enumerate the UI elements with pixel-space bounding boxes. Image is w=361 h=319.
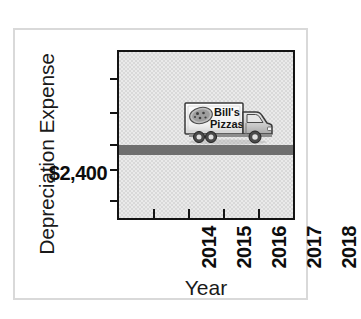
delivery-truck-illustration: Bill's Pizzas [182,99,274,147]
truck-rear-wheel-1 [194,132,205,143]
y-axis-title: Depreciation Expense [35,44,59,264]
truck-brand-line1: Bill's [214,106,240,118]
truck-rear-wheel-2 [206,132,217,143]
y-axis-tick [110,169,119,171]
y-axis-tick [110,112,119,114]
x-axis-title: Year [117,276,295,300]
y-axis-tick-label-2400: $2,400 [45,162,107,185]
figure-frame: Depreciation Expense $2,400 [13,28,308,300]
x-axis-tick [223,209,225,218]
x-axis-tick [188,209,190,218]
x-axis-label-2017: 2017 [303,226,326,290]
truck-headlight [268,127,272,131]
x-axis-tick [153,209,155,218]
y-axis-tick [110,78,119,80]
truck-brand-line2: Pizzas [210,118,244,130]
x-axis-tick [258,209,260,218]
x-axis-label-2018: 2018 [338,226,361,290]
y-axis-tick [110,144,119,146]
truck-front-wheel [249,131,261,143]
y-axis-tick [110,200,119,202]
plot-area: Bill's Pizzas [117,50,295,220]
